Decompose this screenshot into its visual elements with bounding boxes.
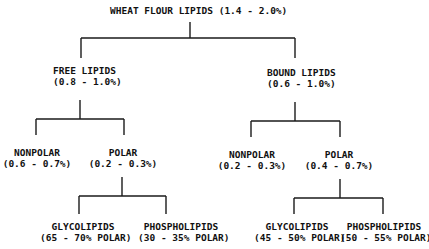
free-phospholipids-range: (30 - 35% POLAR) xyxy=(138,232,224,243)
bound-phospholipids-range: (50 - 55% POLAR) xyxy=(340,232,428,243)
bound-glycolipids-node: GLYCOLIPIDS (45 - 50% POLAR) xyxy=(254,221,340,243)
bound-phospholipids-title: PHOSPHOLIPIDS xyxy=(340,221,428,232)
bound-nonpolar-title: NONPOLAR xyxy=(217,149,287,160)
bound-polar-title: POLAR xyxy=(304,149,374,160)
free-glycolipids-node: GLYCOLIPIDS (65 - 70% POLAR) xyxy=(40,221,126,243)
free-glycolipids-title: GLYCOLIPIDS xyxy=(40,221,126,232)
bound-nonpolar-range: (0.2 - 0.3%) xyxy=(217,160,287,171)
free-nonpolar-range: (0.6 - 0.7%) xyxy=(2,158,72,169)
free-lipids-node: FREE LIPIDS (0.8 - 1.0%) xyxy=(53,65,122,87)
free-nonpolar-node: NONPOLAR (0.6 - 0.7%) xyxy=(2,147,72,169)
free-lipids-title: FREE LIPIDS xyxy=(53,65,122,76)
bound-phospholipids-node: PHOSPHOLIPIDS (50 - 55% POLAR) xyxy=(340,221,428,243)
free-polar-node: POLAR (0.2 - 0.3%) xyxy=(88,147,158,169)
bound-polar-node: POLAR (0.4 - 0.7%) xyxy=(304,149,374,171)
bound-polar-range: (0.4 - 0.7%) xyxy=(304,160,374,171)
connector-lines xyxy=(0,0,429,249)
free-nonpolar-title: NONPOLAR xyxy=(2,147,72,158)
free-glycolipids-range: (65 - 70% POLAR) xyxy=(40,232,126,243)
root-label: WHEAT FLOUR LIPIDS (1.4 - 2.0%) xyxy=(110,5,274,16)
bound-glycolipids-title: GLYCOLIPIDS xyxy=(254,221,340,232)
free-polar-range: (0.2 - 0.3%) xyxy=(88,158,158,169)
free-phospholipids-title: PHOSPHOLIPIDS xyxy=(138,221,224,232)
bound-lipids-node: BOUND LIPIDS (0.6 - 1.0%) xyxy=(267,67,336,89)
bound-nonpolar-node: NONPOLAR (0.2 - 0.3%) xyxy=(217,149,287,171)
free-lipids-range: (0.8 - 1.0%) xyxy=(53,76,122,87)
bound-glycolipids-range: (45 - 50% POLAR) xyxy=(254,232,340,243)
free-phospholipids-node: PHOSPHOLIPIDS (30 - 35% POLAR) xyxy=(138,221,224,243)
root-node: WHEAT FLOUR LIPIDS (1.4 - 2.0%) xyxy=(110,5,274,16)
lipid-classification-diagram: WHEAT FLOUR LIPIDS (1.4 - 2.0%) FREE LIP… xyxy=(0,0,429,249)
free-polar-title: POLAR xyxy=(88,147,158,158)
bound-lipids-title: BOUND LIPIDS xyxy=(267,67,336,78)
bound-lipids-range: (0.6 - 1.0%) xyxy=(267,78,336,89)
